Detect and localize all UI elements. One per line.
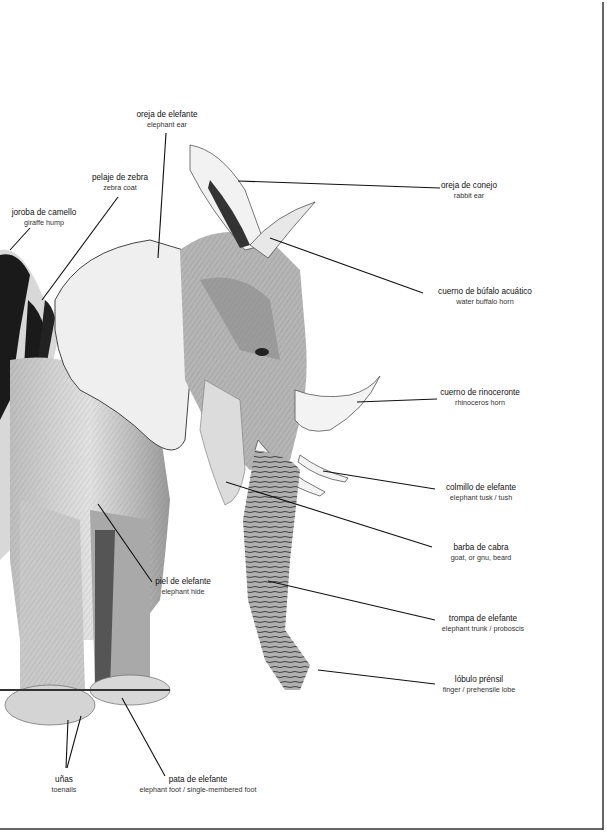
label-rabbit-ear: oreja de conejo rabbit ear: [441, 181, 497, 201]
leader-toenail-2: [67, 716, 81, 768]
leader-ear: [158, 133, 166, 258]
leader-foot: [122, 698, 165, 776]
label-foot: pata de elefante elephant foot / single-…: [139, 775, 256, 795]
label-zebra-coat: pelaje de zebra zebra coat: [92, 173, 148, 193]
leader-toenail-1: [66, 720, 68, 768]
label-buffalo-horn: cuerno de búfalo acuático water buffalo …: [438, 287, 532, 307]
leader-trunk: [268, 581, 435, 620]
label-hump: joroba de camello giraffe hump: [12, 208, 77, 228]
label-rhino-horn: cuerno de rinoceronte rhinoceros horn: [440, 388, 520, 408]
leader-lobe: [318, 670, 435, 684]
leader-rhino-horn: [357, 399, 437, 402]
label-trunk: trompa de elefante elephant trunk / prob…: [442, 614, 524, 634]
label-beard: barba de cabra goat, or gnu, beard: [451, 543, 512, 563]
diagram-canvas: oreja de elefante elephant ear pelaje de…: [0, 0, 607, 838]
elephant-illustration: [0, 0, 607, 838]
label-toenails: uñas toenails: [52, 775, 77, 795]
label-tusk: colmillo de elefante elephant tusk / tus…: [446, 483, 516, 503]
label-prehensile-lobe: lóbulo prénsil finger / prehensile lobe: [443, 675, 516, 695]
elephant-head: [180, 232, 307, 470]
leader-rabbit-ear: [238, 181, 440, 188]
rhino-horn-shape: [295, 376, 380, 431]
leader-hump: [10, 228, 30, 250]
label-elephant-ear: oreja de elefante elephant ear: [137, 110, 198, 130]
label-hide: piel de elefante elephant hide: [155, 577, 211, 597]
